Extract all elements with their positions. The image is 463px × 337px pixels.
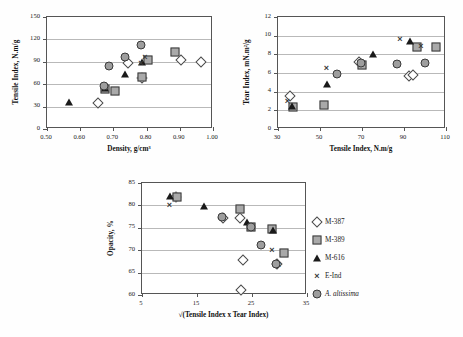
x-tick: [180, 127, 181, 131]
y-tick-label: 60: [115, 290, 135, 297]
y-tick: [274, 92, 278, 93]
marker-circle-icon: [313, 290, 322, 299]
data-point-triangle: [121, 70, 129, 77]
data-point-triangle: [269, 227, 277, 234]
x-tick: [362, 127, 363, 131]
y-tick-label: 80: [115, 200, 135, 207]
y-tick: [43, 39, 47, 40]
legend-label: M-616: [325, 254, 345, 262]
y-axis-label: Tear Index, mN.m²/g: [243, 16, 251, 128]
gridline-horizontal: [47, 84, 211, 85]
y-tick-label: 120: [20, 34, 40, 41]
x-tick: [142, 293, 143, 297]
y-tick: [138, 250, 142, 251]
y-tick-label: 60: [20, 79, 40, 86]
y-tick: [274, 36, 278, 37]
data-point-diamond: [238, 254, 249, 265]
data-point-diamond: [235, 284, 246, 295]
legend-item-m-387[interactable]: M-387: [312, 213, 359, 231]
legend-item-e-ind[interactable]: ×E-Ind: [312, 267, 359, 285]
x-tick-label: 15: [180, 299, 212, 306]
x-tick: [47, 127, 48, 131]
y-axis-label: Tensile Index, N.m/g: [12, 16, 20, 128]
data-point-triangle: [406, 38, 414, 45]
y-tick: [43, 17, 47, 18]
gridline-horizontal: [278, 73, 444, 74]
y-tick: [43, 107, 47, 108]
y-tick-label: 150: [20, 12, 40, 19]
data-point-circle: [136, 40, 145, 49]
legend-label: M-389: [325, 236, 345, 244]
data-point-circle: [121, 52, 130, 61]
x-tick-label: 90: [387, 133, 419, 140]
data-point-triangle: [166, 192, 174, 199]
x-tick-label: 0.90: [163, 133, 195, 140]
x-axis-label: Tensile Index, N.m/g: [277, 145, 445, 153]
legend-item-m-389[interactable]: M-389: [312, 231, 359, 249]
y-tick-label: 90: [20, 56, 40, 63]
gridline-horizontal: [278, 92, 444, 93]
y-tick-label: 85: [115, 178, 135, 185]
y-tick-label: 30: [20, 101, 40, 108]
data-point-circle: [421, 58, 430, 67]
data-point-cross: ×: [141, 53, 149, 61]
data-point-circle: [256, 241, 265, 250]
x-tick: [404, 127, 405, 131]
legend-item-m-616[interactable]: M-616: [312, 249, 359, 267]
legend-label: M-387: [325, 218, 345, 226]
x-tick: [213, 127, 214, 131]
data-point-cross: ×: [417, 42, 425, 50]
legend-item-a-altissima[interactable]: A. altissima: [312, 285, 359, 303]
y-tick-label: 4: [251, 86, 271, 93]
x-tick-label: 0.60: [63, 133, 95, 140]
y-tick-label: 65: [115, 267, 135, 274]
y-tick: [274, 110, 278, 111]
x-tick-label: 70: [345, 133, 377, 140]
data-point-square: [111, 86, 120, 95]
legend-label: E-Ind: [325, 272, 341, 280]
data-point-square: [235, 204, 244, 213]
marker-triangle-icon: [313, 255, 321, 262]
data-point-triangle: [323, 80, 331, 87]
x-tick: [446, 127, 447, 131]
y-tick: [274, 73, 278, 74]
data-point-circle: [105, 61, 114, 70]
x-tick: [113, 127, 114, 131]
x-tick-label: 25: [235, 299, 267, 306]
data-point-square: [137, 73, 146, 82]
chart-panel-tensile-vs-density: ×××03060901201500.500.600.700.800.901.00…: [0, 4, 232, 170]
gridline-horizontal: [47, 39, 211, 40]
y-tick: [138, 183, 142, 184]
data-point-cross: ×: [166, 201, 174, 209]
data-point-square: [431, 42, 440, 51]
x-tick-label: 5: [125, 299, 157, 306]
x-tick-label: 0.70: [96, 133, 128, 140]
x-tick: [307, 293, 308, 297]
y-tick: [138, 273, 142, 274]
data-point-circle: [392, 59, 401, 68]
data-point-diamond: [196, 56, 207, 67]
y-tick-label: 12: [251, 12, 271, 19]
y-tick-label: 6: [251, 68, 271, 75]
marker-cross-icon: ×: [313, 272, 321, 280]
x-tick-label: 30: [261, 133, 293, 140]
y-tick-label: 75: [115, 222, 135, 229]
gridline-horizontal: [142, 273, 305, 274]
data-point-square: [170, 48, 179, 57]
data-point-square: [320, 101, 329, 110]
plot-area: ×××: [46, 16, 212, 128]
chart-panel-tear-vs-tensile: ××××02468101230507090110Tear Index, mN.m…: [231, 4, 463, 170]
x-tick: [80, 127, 81, 131]
y-tick: [274, 54, 278, 55]
legend-marker-diamond-icon: [312, 217, 322, 227]
data-point-triangle: [369, 50, 377, 57]
marker-square-icon: [313, 236, 322, 245]
y-tick: [138, 205, 142, 206]
data-point-square: [280, 248, 289, 257]
data-point-circle: [246, 223, 255, 232]
gridline-horizontal: [142, 228, 305, 229]
y-tick: [43, 62, 47, 63]
y-tick-label: 0: [20, 124, 40, 131]
legend-label: A. altissima: [325, 290, 359, 298]
plot-area: ××××: [141, 182, 306, 294]
